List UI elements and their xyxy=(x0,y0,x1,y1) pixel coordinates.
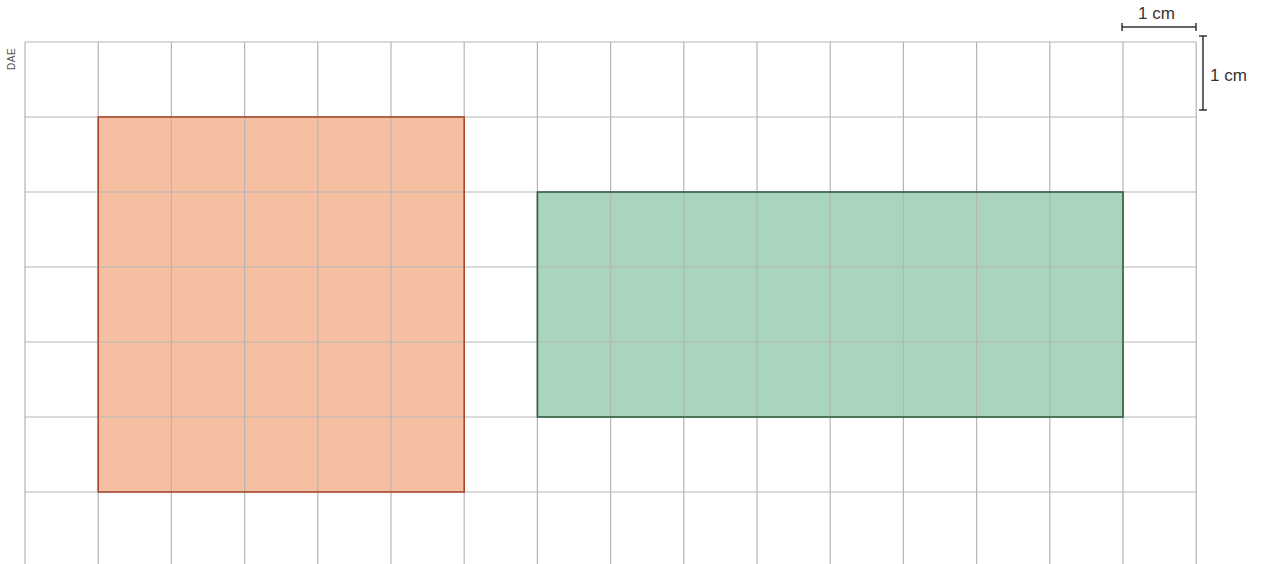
credit-text: DAE xyxy=(6,48,17,70)
scale-markers xyxy=(1122,23,1207,110)
grid-diagram xyxy=(0,0,1266,564)
scale-horizontal-label: 1 cm xyxy=(1138,4,1175,24)
scale-vertical-label: 1 cm xyxy=(1210,66,1247,86)
orange-square xyxy=(98,117,464,492)
image-credit: DAE xyxy=(6,40,18,70)
